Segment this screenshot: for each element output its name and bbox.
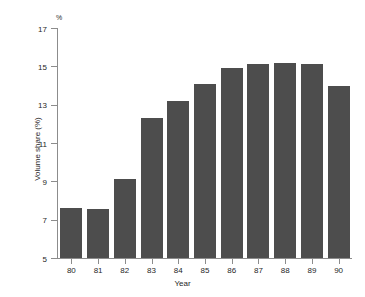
y-axis-tick-mark (51, 105, 58, 106)
bar-slot (60, 28, 82, 258)
x-axis-tick-mark (71, 259, 72, 264)
bar (114, 179, 136, 258)
y-axis-tick-mark (51, 28, 58, 29)
x-axis-tick-label: 87 (254, 266, 263, 275)
y-axis-tick-label: 5 (43, 254, 47, 263)
bar (247, 64, 269, 258)
x-axis-title: Year (0, 279, 365, 288)
x-axis-tick-mark (98, 259, 99, 264)
y-axis-unit-label: % (56, 14, 62, 21)
y-axis-tick-label: 7 (43, 216, 47, 225)
bar (167, 101, 189, 258)
y-axis-tick-mark (51, 181, 58, 182)
y-axis-tick-label: 17 (38, 24, 47, 33)
y-axis-tick-mark (51, 66, 58, 67)
bar-slot (274, 28, 296, 258)
y-axis-tick-label: 11 (39, 139, 47, 148)
y-axis-tick: 13 (51, 105, 58, 106)
x-axis-tick-mark (312, 259, 313, 264)
y-axis-title: Volume share (%) (6, 144, 20, 153)
y-axis-tick-label: 13 (38, 101, 47, 110)
bar (328, 86, 350, 259)
y-axis-tick-mark (51, 220, 58, 221)
bar-series (58, 28, 352, 258)
bar-slot (114, 28, 136, 258)
bar-slot (247, 28, 269, 258)
y-axis-tick: 9 (51, 181, 58, 182)
bar (274, 63, 296, 259)
x-axis-tick-mark (125, 259, 126, 264)
x-axis-tick-mark (285, 259, 286, 264)
x-axis-tick-mark (232, 259, 233, 264)
y-axis-tick: 11 (51, 143, 58, 144)
bar-slot (301, 28, 323, 258)
x-axis-tick-label: 89 (307, 266, 316, 275)
bar-slot (141, 28, 163, 258)
bar-slot (167, 28, 189, 258)
y-axis-tick: 5 (51, 258, 58, 259)
y-axis-tick-mark (51, 258, 58, 259)
bar (194, 84, 216, 258)
bar (60, 208, 82, 258)
bar (221, 68, 243, 258)
bar-slot (328, 28, 350, 258)
x-axis-tick-label: 82 (120, 266, 129, 275)
x-axis-tick-mark (339, 259, 340, 264)
x-axis-tick-label: 85 (201, 266, 210, 275)
bar (87, 209, 109, 258)
x-axis-tick-mark (152, 259, 153, 264)
x-axis-tick-label: 81 (94, 266, 103, 275)
x-axis-tick-mark (205, 259, 206, 264)
bar-chart: % Volume share (%) 57911131517 808182838… (0, 0, 365, 297)
x-axis-tick-mark (258, 259, 259, 264)
bar (301, 64, 323, 258)
x-axis-tick-label: 90 (334, 266, 343, 275)
x-axis-tick-mark (178, 259, 179, 264)
bar (141, 118, 163, 258)
y-axis-tick: 7 (51, 220, 58, 221)
x-axis-tick-label: 80 (67, 266, 76, 275)
y-axis-title-text: Volume share (%) (33, 117, 42, 181)
y-axis-tick: 15 (51, 66, 58, 67)
y-axis-tick: 17 (51, 28, 58, 29)
x-axis-tick-label: 84 (174, 266, 183, 275)
bar-slot (87, 28, 109, 258)
y-axis-tick-label: 15 (38, 62, 47, 71)
x-axis-tick-label: 83 (147, 266, 156, 275)
y-axis-tick-label: 9 (43, 177, 47, 186)
x-axis-tick-label: 86 (227, 266, 236, 275)
bar-slot (194, 28, 216, 258)
bar-slot (221, 28, 243, 258)
y-axis-tick-mark (51, 143, 58, 144)
x-axis-tick-label: 88 (281, 266, 290, 275)
